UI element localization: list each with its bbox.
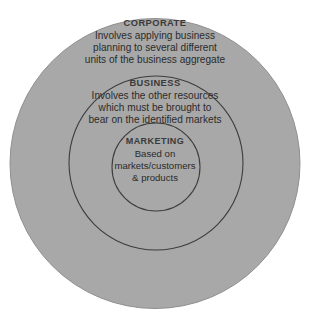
ring-body-line: units of the business aggregate xyxy=(15,54,295,66)
ring-body-line: Based on xyxy=(95,148,215,160)
ring-body-line: planning to several different xyxy=(15,42,295,54)
concentric-circles-diagram: CORPORATE Involves applying business pla… xyxy=(0,0,310,327)
ring-label-business: BUSINESS Involves the other resources wh… xyxy=(35,78,275,125)
labels-layer: CORPORATE Involves applying business pla… xyxy=(0,0,310,327)
ring-body-line: Involves applying business xyxy=(15,30,295,42)
ring-body-line: bear on the identified markets xyxy=(35,114,275,126)
ring-heading-corporate: CORPORATE xyxy=(15,18,295,30)
ring-body-line: markets/customers xyxy=(95,160,215,172)
ring-heading-business: BUSINESS xyxy=(35,78,275,90)
ring-body-line: which must be brought to xyxy=(35,102,275,114)
ring-label-marketing: MARKETING Based on markets/customers & p… xyxy=(95,136,215,183)
ring-body-line: Involves the other resources xyxy=(35,90,275,102)
ring-heading-marketing: MARKETING xyxy=(95,136,215,148)
ring-label-corporate: CORPORATE Involves applying business pla… xyxy=(15,18,295,65)
ring-body-line: & products xyxy=(95,172,215,184)
